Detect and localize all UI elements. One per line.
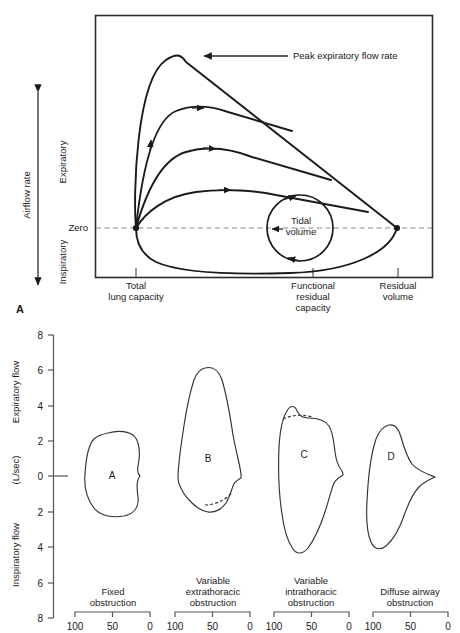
- panel-b-ylabel-2: 4: [37, 401, 43, 412]
- panel-a-point-residual-volume: [394, 225, 400, 231]
- figure-root: Airflow rate Expiratory Inspiratory Zero…: [0, 0, 460, 633]
- svg-text:volume: volume: [383, 291, 414, 302]
- panel-b-ylabel-4: 0: [37, 471, 43, 482]
- flow-volume-figure: Airflow rate Expiratory Inspiratory Zero…: [0, 0, 460, 633]
- loop-b-xlabel-100: 100: [167, 621, 184, 632]
- panel-b-ylabel-6: 4: [37, 542, 43, 553]
- loop-b-letter: B: [205, 453, 212, 464]
- svg-text:Total: Total: [126, 280, 146, 291]
- loop-b-xlabel-0: 0: [247, 621, 253, 632]
- loop-b-xlabel-50: 50: [207, 621, 219, 632]
- panel-a-xtick-label-rv: Residual volume: [380, 280, 417, 302]
- panel-a-point-total-lung-capacity: [133, 225, 139, 231]
- panel-a-curve-inspiratory: [136, 228, 397, 274]
- panel-a-y-upper-label: Expiratory: [57, 140, 68, 183]
- loop-b-caption-line3: obstruction: [190, 597, 236, 608]
- loop-d-xlabel-0: 0: [445, 621, 451, 632]
- loop-a-letter: A: [109, 470, 116, 481]
- panel-a: Airflow rate Expiratory Inspiratory Zero…: [16, 16, 433, 316]
- loop-a-xlabel-50: 50: [107, 621, 119, 632]
- svg-text:Residual: Residual: [380, 280, 417, 291]
- loop-d-xlabel-100: 100: [365, 621, 382, 632]
- panel-b-loop-a: A Fixed obstruction 100 50 0: [67, 431, 154, 632]
- loop-c-xlabel-100: 100: [266, 621, 283, 632]
- panel-b-ylabel-0: 8: [37, 330, 43, 341]
- panel-b-ylabel-7: 6: [37, 578, 43, 589]
- loop-a-caption-line2: obstruction: [90, 597, 136, 608]
- loop-d-caption-line1: Diffuse airway: [380, 586, 440, 597]
- panel-b-ylabel-5: 2: [37, 507, 43, 518]
- loop-c-xlabel-50: 50: [306, 621, 318, 632]
- panel-a-xtick-label-frc: Functional residual capacity: [291, 280, 335, 313]
- loop-c-outline: [279, 407, 343, 554]
- panel-b-ylabel-1: 6: [37, 365, 43, 376]
- panel-b: 8 6 4 2 0 2 4 6 8 Expiratory flow (L/sec…: [10, 330, 451, 632]
- panel-a-y-axis-label: Airflow rate: [21, 171, 32, 219]
- loop-b-caption-line2: extrathoracic: [186, 586, 241, 597]
- loop-d-outline: [367, 425, 435, 549]
- panel-a-curve-maximal: [135, 56, 397, 228]
- panel-b-loop-b: B Variable extrathoracic obstruction 100…: [167, 368, 254, 632]
- peak-expiratory-flow-label: Peak expiratory flow rate: [293, 50, 398, 61]
- loop-a-xlabel-100: 100: [67, 621, 84, 632]
- panel-b-y-upper-label: Expiratory flow: [10, 361, 21, 423]
- svg-text:Functional: Functional: [291, 280, 335, 291]
- panel-a-curve-submaximal-1: [136, 106, 292, 228]
- loop-b-outline: [178, 368, 241, 513]
- panel-b-loop-d: D Diffuse airway obstruction 100 50 0: [365, 425, 452, 632]
- panel-b-loop-c: C Variable intrathoracic obstruction 100…: [266, 407, 353, 633]
- loop-a-xlabel-0: 0: [147, 621, 153, 632]
- panel-a-zero-label: Zero: [68, 222, 88, 233]
- tidal-volume-label-line1: Tidal: [291, 215, 311, 226]
- loop-d-letter: D: [387, 451, 394, 462]
- loop-a-caption-line1: Fixed: [101, 586, 124, 597]
- panel-b-y-lower-label: Inspiratory flow: [10, 523, 21, 587]
- loop-d-xlabel-50: 50: [405, 621, 417, 632]
- loop-c-caption-line3: obstruction: [288, 597, 334, 608]
- panel-a-xtick-label-tlc: Total lung capacity: [108, 280, 164, 302]
- loop-d-caption-line2: obstruction: [387, 597, 433, 608]
- loop-c-letter: C: [300, 449, 307, 460]
- panel-a-letter: A: [16, 303, 24, 315]
- loop-c-caption-line1: Variable: [294, 575, 328, 586]
- panel-b-ylabel-3: 2: [37, 436, 43, 447]
- loop-c-caption-line2: intrathoracic: [285, 586, 337, 597]
- svg-text:lung capacity: lung capacity: [108, 291, 164, 302]
- panel-a-y-lower-label: Inspiratory: [57, 240, 68, 285]
- svg-text:capacity: capacity: [296, 302, 331, 313]
- panel-b-y-unit-label: (L/sec): [10, 455, 21, 484]
- loop-c-xlabel-0: 0: [346, 621, 352, 632]
- panel-b-ylabel-8: 8: [37, 613, 43, 624]
- svg-text:residual: residual: [296, 291, 329, 302]
- tidal-volume-label-line2: volume: [286, 226, 317, 237]
- loop-b-caption-line1: Variable: [196, 575, 230, 586]
